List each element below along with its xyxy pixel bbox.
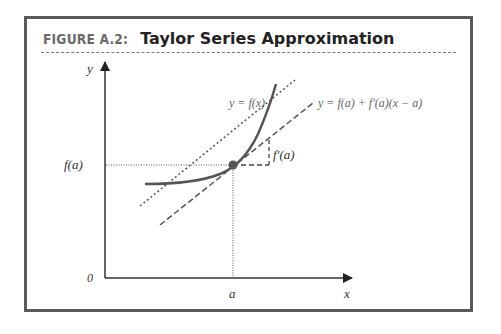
a-tick-label: a (229, 286, 236, 301)
curve-label: y = f(x) (228, 96, 265, 110)
x-axis-label: x (343, 286, 350, 301)
taylor-diagram: y x 0 a f(a) y = f(x) y = f(a) + f′(a)(x… (0, 0, 501, 334)
fa-tick-label: f(a) (64, 157, 83, 172)
slope-label: f′(a) (273, 147, 295, 162)
origin-label: 0 (87, 271, 93, 285)
tangency-point (229, 161, 238, 170)
y-axis-label: y (85, 61, 93, 76)
tangent-label: y = f(a) + f′(a)(x − a) (317, 96, 422, 110)
